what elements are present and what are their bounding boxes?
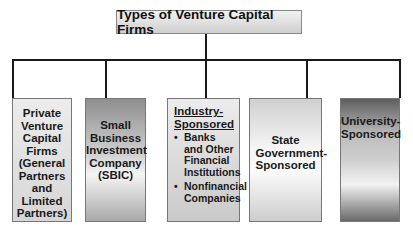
node-state-government-sponsored: State Government-Sponsored bbox=[249, 98, 322, 222]
list-item: •Banks and Other Financial Institutions bbox=[174, 132, 235, 178]
sub-item-list: •Banks and Other Financial Institutions … bbox=[174, 132, 235, 204]
node-label: State Government-Sponsored bbox=[256, 134, 316, 172]
connector-branch-5 bbox=[399, 59, 401, 98]
node-label: University-Sponsored bbox=[341, 115, 401, 140]
node-label: Industry-Sponsored bbox=[174, 105, 235, 130]
connector-branch-1 bbox=[12, 59, 14, 98]
node-private-vc-firms: Private Venture Capital Firms (General P… bbox=[12, 98, 72, 222]
node-sbic: Small Business Investment Company (SBIC) bbox=[85, 98, 146, 222]
root-node-title: Types of Venture Capital Firms bbox=[116, 10, 302, 34]
bullet-icon: • bbox=[174, 132, 178, 144]
connector-branch-2 bbox=[105, 59, 107, 98]
node-industry-sponsored: Industry-Sponsored •Banks and Other Fina… bbox=[167, 98, 240, 222]
node-university-sponsored: University-Sponsored bbox=[340, 98, 400, 222]
bullet-icon: • bbox=[174, 181, 178, 193]
node-label: Small Business Investment Company (SBIC) bbox=[86, 119, 147, 181]
list-item: •Nonfinancial Companies bbox=[174, 181, 235, 204]
connector-trunk bbox=[205, 34, 207, 61]
connector-branch-3 bbox=[205, 59, 207, 98]
node-label: Private Venture Capital Firms (General P… bbox=[17, 107, 68, 219]
connector-branch-4 bbox=[306, 59, 308, 98]
